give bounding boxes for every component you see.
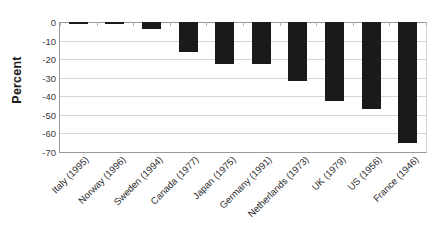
bar (142, 22, 161, 29)
y-axis-tick-label: 0 (30, 17, 56, 28)
y-axis-title: Percent (0, 0, 34, 160)
y-axis-title-label: Percent (10, 56, 24, 103)
bar (69, 22, 88, 24)
x-axis-tick-label: UK (1979) (309, 154, 347, 192)
y-axis-tick-label: -60 (30, 128, 56, 139)
bar (362, 22, 381, 109)
y-axis-tick-label: -70 (30, 147, 56, 158)
y-axis-tick-label: -10 (30, 35, 56, 46)
plot-area (59, 22, 427, 153)
bar (252, 22, 271, 64)
bar (215, 22, 234, 64)
bar (325, 22, 344, 101)
y-axis-tick-labels: 0-10-20-30-40-50-60-70 (30, 14, 56, 160)
y-axis-tick-label: -50 (30, 109, 56, 120)
x-axis-tick-mark (426, 22, 427, 26)
bar (179, 22, 198, 52)
bar (105, 22, 124, 24)
y-axis-tick-label: -20 (30, 54, 56, 65)
bar-chart-figure: Percent 0-10-20-30-40-50-60-70 Italy (19… (0, 0, 440, 246)
x-axis-tick-label: US (1956) (345, 154, 383, 192)
bar (398, 22, 417, 143)
y-axis-tick-label: -40 (30, 91, 56, 102)
bar (288, 22, 307, 81)
y-axis-tick-label: -30 (30, 72, 56, 83)
x-axis-tick-labels: Italy (1995)Norway (1996)Sweden (1994)Ca… (59, 154, 425, 246)
bars-layer (60, 22, 426, 152)
